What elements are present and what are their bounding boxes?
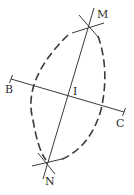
label-c: C: [116, 118, 124, 129]
label-i: I: [73, 86, 77, 97]
label-b: B: [5, 84, 13, 95]
left-dashed-arc: [31, 35, 68, 160]
arc-mark-m-2: [72, 23, 104, 33]
label-m: M: [97, 9, 108, 20]
perpendicular-bisector-diagram: [0, 0, 134, 195]
arc-mark-m-1: [79, 15, 99, 38]
label-n: N: [45, 176, 55, 187]
line-mn: [43, 8, 94, 179]
